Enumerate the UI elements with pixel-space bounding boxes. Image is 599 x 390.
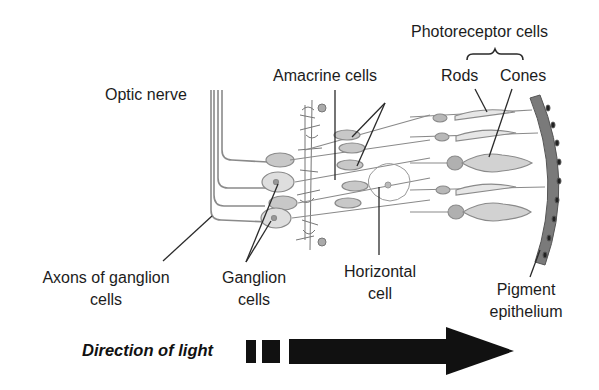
direction-of-light-label: Direction of light — [82, 341, 213, 360]
optic-nerve-axons — [211, 90, 270, 222]
label-horizontal-line2: cell — [368, 284, 392, 303]
retina-diagram: Photoreceptor cells Rods Cones Amacrine … — [0, 0, 599, 390]
label-optic-nerve: Optic nerve — [105, 85, 187, 104]
label-pigment-line1: Pigment — [497, 280, 556, 299]
label-cones: Cones — [500, 66, 546, 85]
ganglion-cells — [261, 153, 297, 228]
photoreceptors — [410, 110, 545, 221]
label-ganglion-line2: cells — [238, 290, 270, 309]
retina-illustration — [0, 0, 599, 390]
label-horizontal-line1: Horizontal — [344, 262, 416, 281]
label-axons-line1: Axons of ganglion — [42, 268, 169, 287]
label-pigment-line2: epithelium — [490, 302, 563, 321]
label-rods: Rods — [441, 66, 478, 85]
label-axons-line2: cells — [90, 290, 122, 309]
dendritic-network — [296, 100, 326, 250]
label-amacrine-cells: Amacrine cells — [273, 66, 377, 85]
label-photoreceptor-cells: Photoreceptor cells — [411, 22, 548, 41]
right-arrow-icon — [246, 327, 514, 375]
label-ganglion-line1: Ganglion — [222, 268, 286, 287]
pigment-epithelium — [530, 95, 561, 265]
horizontal-cell — [368, 164, 410, 201]
